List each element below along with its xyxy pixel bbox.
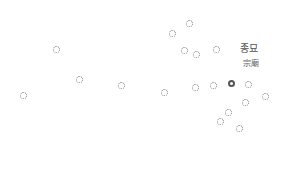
selected-station-marker[interactable] — [228, 80, 235, 87]
station-marker[interactable] — [53, 46, 60, 53]
station-marker[interactable] — [192, 84, 199, 91]
station-marker[interactable] — [193, 51, 200, 58]
station-marker[interactable] — [118, 82, 125, 89]
station-marker[interactable] — [262, 93, 269, 100]
station-marker[interactable] — [242, 99, 249, 106]
station-marker[interactable] — [210, 82, 217, 89]
station-marker[interactable] — [245, 81, 252, 88]
station-marker[interactable] — [76, 76, 83, 83]
station-marker[interactable] — [225, 109, 232, 116]
map-canvas[interactable]: 종묘 宗廟 — [0, 0, 287, 183]
station-marker[interactable] — [161, 89, 168, 96]
station-marker[interactable] — [186, 20, 193, 27]
station-marker[interactable] — [213, 46, 220, 53]
station-label-hanja: 宗廟 — [243, 57, 259, 68]
station-marker[interactable] — [181, 47, 188, 54]
station-label-korean: 종묘 — [240, 40, 258, 55]
station-marker[interactable] — [217, 118, 224, 125]
station-marker[interactable] — [169, 30, 176, 37]
station-marker[interactable] — [20, 92, 27, 99]
station-marker[interactable] — [236, 125, 243, 132]
